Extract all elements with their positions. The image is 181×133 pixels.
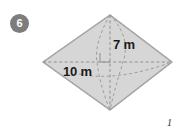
question-number-badge: 6 <box>10 14 29 33</box>
height-label: 7 m <box>113 37 135 52</box>
base-label: 10 m <box>63 64 92 79</box>
page-artifact-mark: 1 <box>167 119 171 127</box>
worksheet-page: 6 7 m 10 m 1 <box>0 0 181 133</box>
rhombus-figure <box>33 8 181 120</box>
rhombus-diagram-svg <box>33 8 181 120</box>
